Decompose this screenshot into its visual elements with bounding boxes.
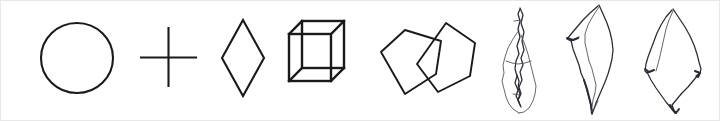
shape-handdrawn-diamond-right: [645, 9, 701, 113]
shape-circle: [41, 23, 113, 93]
shape-cross: [140, 27, 197, 87]
shape-diamond: [222, 20, 264, 96]
shape-overlapping-pentagons: [381, 23, 475, 94]
shape-handdrawn-diamond-left: [567, 5, 613, 114]
shape-set-illustration: [1, 1, 720, 121]
shape-handdrawn-collapsed: [502, 8, 536, 113]
shape-necker-cube: [289, 21, 344, 81]
figure-canvas: [0, 0, 720, 121]
